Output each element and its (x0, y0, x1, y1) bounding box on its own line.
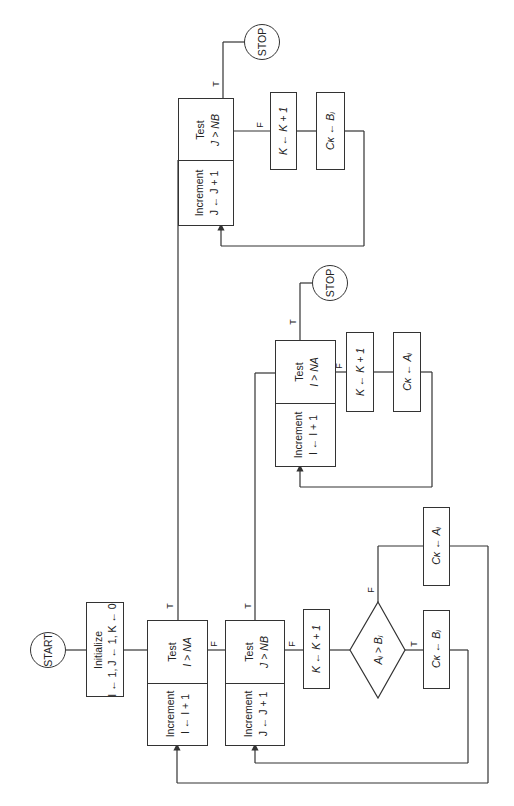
test-j-main-box (225, 620, 285, 684)
test-i-tail-cond: I > NA (308, 357, 320, 386)
ck-bj-main-label: Cκ ← Bⱼ (430, 630, 442, 668)
test-i-tail-box (275, 340, 336, 404)
label-t: T (211, 81, 221, 87)
incr-j-tail-box (178, 160, 234, 226)
label-f: F (334, 363, 344, 369)
start-label: START (42, 633, 54, 666)
incr-j-main-title: Increment (242, 691, 254, 738)
compare-label: Aᵢ > Bⱼ (372, 635, 384, 664)
incr-j-tail-title: Increment (193, 170, 205, 217)
label-t: T (288, 319, 298, 325)
ck-ai-main-label: Cκ ← Aᵢ (430, 527, 442, 564)
incr-i-tail-title: Increment (292, 412, 304, 459)
label-t: T (165, 603, 175, 609)
label-f: F (255, 122, 265, 128)
test-j-main-title: Test (243, 642, 255, 661)
initialize-title: Initialize (92, 631, 104, 669)
stop-a-label: STOP (324, 269, 336, 297)
ck-bj-tail-label: Cκ ← Bⱼ (324, 112, 336, 150)
k-incr-main-label: K ← K + 1 (310, 625, 322, 673)
label-t: T (409, 641, 419, 647)
test-j-main-cond: J > NB (258, 636, 270, 668)
initialize-expr: I ← 1, J ← 1, K ← 0 (106, 603, 118, 696)
label-t: T (243, 603, 253, 609)
incr-i-tail-expr: I ← I + 1 (307, 415, 319, 455)
incr-i-tail-box (275, 403, 336, 467)
incr-i-main-box (147, 683, 208, 746)
label-f: F (366, 587, 376, 593)
incr-i-main-expr: I ← I + 1 (179, 694, 191, 734)
test-i-main-title: Test (166, 642, 178, 661)
k-incr-b-tail-label: K ← K + 1 (277, 107, 289, 155)
incr-j-main-expr: J ← J + 1 (257, 692, 269, 737)
test-j-tail-box (178, 98, 234, 161)
incr-j-tail-expr: J ← J + 1 (208, 171, 220, 216)
label-f: F (287, 641, 297, 647)
k-incr-a-tail-label: K ← K + 1 (354, 348, 366, 396)
flowchart-canvas: START Initialize I ← 1, J ← 1, K ← 0 Tes… (0, 0, 514, 806)
test-i-tail-title: Test (293, 362, 305, 381)
test-j-tail-cond: J > NB (209, 114, 221, 146)
test-j-tail-title: Test (194, 120, 206, 139)
ck-ai-tail-label: Cκ ← Aᵢ (401, 353, 413, 390)
test-i-main-cond: I > NA (181, 637, 193, 666)
label-f: F (209, 641, 219, 647)
incr-i-main-title: Increment (164, 691, 176, 738)
stop-b-label: STOP (256, 28, 268, 56)
incr-j-main-box (225, 683, 285, 746)
